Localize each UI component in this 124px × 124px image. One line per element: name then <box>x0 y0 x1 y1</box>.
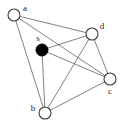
graph-edge-s-c <box>47 52 105 77</box>
graph-node-c[interactable] <box>104 73 116 85</box>
graph-edge-a-d <box>19 16 86 32</box>
graph-node-label-b: b <box>31 103 36 113</box>
label-layer: asdcb <box>23 3 112 113</box>
graph-node-s[interactable] <box>36 44 48 56</box>
graph-canvas: asdcb <box>0 0 124 124</box>
graph-node-b[interactable] <box>39 107 51 119</box>
graph-node-a[interactable] <box>8 9 20 21</box>
graph-node-label-s: s <box>36 33 40 43</box>
graph-edge-d-b <box>48 39 89 109</box>
graph-node-d[interactable] <box>86 28 98 40</box>
graph-node-label-a: a <box>23 3 27 13</box>
graph-node-label-c: c <box>108 86 112 96</box>
graph-edge-d-c <box>94 39 108 74</box>
graph-edge-s-d <box>47 36 87 49</box>
graph-edge-b-c <box>50 82 105 111</box>
graph-node-label-d: d <box>100 21 105 31</box>
graph-edge-s-b <box>42 55 44 107</box>
graph-figure: asdcb <box>0 0 124 124</box>
